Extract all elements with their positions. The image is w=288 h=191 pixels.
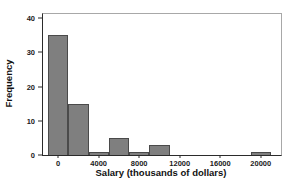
plot-inner: 010203040 <box>43 18 281 155</box>
x-axis-title: Salary (thousands of dollars) <box>42 167 280 178</box>
y-tick-label: 30 <box>11 48 35 57</box>
x-tick-mark <box>98 155 99 158</box>
histogram-figure: Frequency 010203040 04000800012000160002… <box>0 0 288 191</box>
x-tick-mark <box>220 155 221 158</box>
histogram-bar <box>68 104 88 155</box>
y-tick-label: 20 <box>11 82 35 91</box>
y-tick-mark <box>38 18 42 19</box>
y-tick-label: 0 <box>11 151 35 160</box>
y-tick-label: 10 <box>11 116 35 125</box>
x-tick-mark <box>58 155 59 158</box>
y-tick-mark <box>38 52 42 53</box>
y-tick-mark <box>38 120 42 121</box>
histogram-bar <box>109 138 129 155</box>
y-tick-mark <box>38 155 42 156</box>
x-tick-mark <box>179 155 180 158</box>
plot-area: 010203040 040008000120001600020000 <box>42 13 282 156</box>
y-tick-label: 40 <box>11 14 35 23</box>
y-tick-mark <box>38 86 42 87</box>
histogram-bar <box>48 35 68 155</box>
histogram-bar <box>149 145 169 155</box>
x-tick-mark <box>139 155 140 158</box>
x-tick-mark <box>260 155 261 158</box>
